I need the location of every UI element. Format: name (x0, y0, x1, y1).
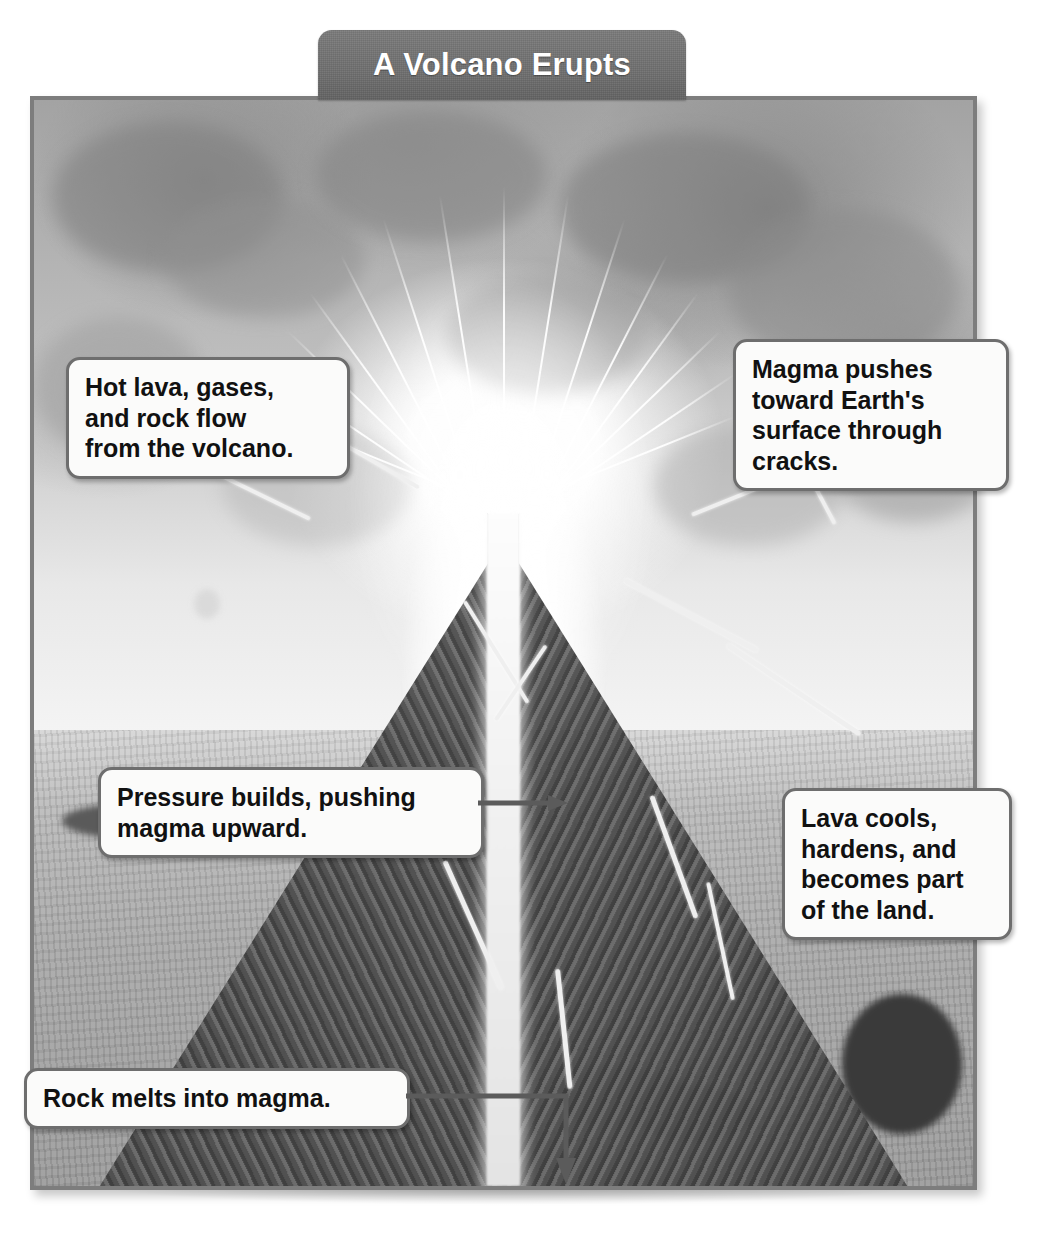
callout-line: hardens, and (801, 834, 993, 865)
volcano-figure (30, 96, 977, 1190)
callout-line: becomes part (801, 864, 993, 895)
pressure-arrow-icon (478, 795, 568, 811)
page-title-banner: A Volcano Erupts (318, 30, 686, 100)
callout-line: Rock melts into magma. (43, 1083, 391, 1114)
callout-line: magma upward. (117, 813, 465, 844)
callout-line: of the land. (801, 895, 993, 926)
page-title: A Volcano Erupts (373, 47, 631, 83)
callout-lava-cools: Lava cools, hardens, and becomes part of… (782, 788, 1012, 940)
callout-rock-melts: Rock melts into magma. (24, 1068, 410, 1129)
callout-line: Hot lava, gases, (85, 372, 331, 403)
callout-line: surface through (752, 415, 990, 446)
callout-magma-pushes: Magma pushes toward Earth's surface thro… (733, 339, 1009, 491)
callout-pressure-builds: Pressure builds, pushing magma upward. (98, 767, 484, 858)
callout-line: Lava cools, (801, 803, 993, 834)
callout-line: toward Earth's (752, 385, 990, 416)
callout-hot-lava: Hot lava, gases, and rock flow from the … (66, 357, 350, 479)
volcano-illustration (34, 100, 973, 1186)
callout-line: and rock flow (85, 403, 331, 434)
rock-melts-arrow-icon (406, 1088, 586, 1184)
callout-line: Magma pushes (752, 354, 990, 385)
volcano-vent (487, 513, 521, 1186)
callout-line: cracks. (752, 446, 990, 477)
callout-line: Pressure builds, pushing (117, 782, 465, 813)
callout-line: from the volcano. (85, 433, 331, 464)
